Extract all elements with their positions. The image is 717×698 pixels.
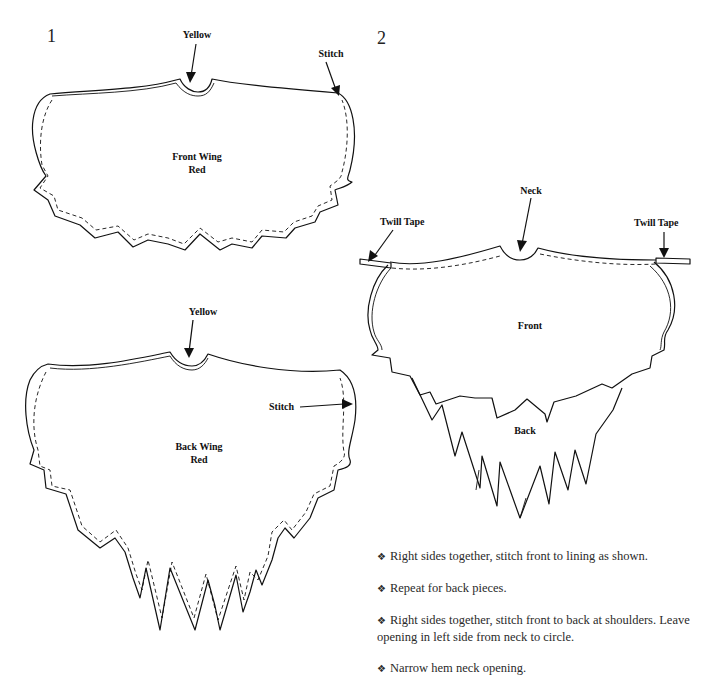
back-label: Back [514, 425, 536, 436]
front-wing-stitch-arrow [326, 62, 340, 96]
front-wing-yellow-arrow [186, 44, 196, 83]
figure-2-number: 2 [377, 28, 386, 49]
twill-tape-left-arrow [368, 230, 393, 262]
back-wing-stitch-arrow [300, 399, 353, 409]
sewing-instruction-page: 1 2 Yellow Stitch Front Wing Red Yellow … [0, 0, 717, 698]
instruction-text: Right sides together, stitch front to ba… [377, 613, 690, 644]
instruction-step: ❖Narrow hem neck opening. [377, 660, 717, 677]
back-wing-title: Back Wing Red [175, 440, 222, 466]
instruction-text: Repeat for back pieces. [390, 581, 507, 595]
back-wing-title-line1: Back Wing [175, 440, 222, 453]
twill-tape-right-arrow [659, 232, 669, 258]
diamond-bullet-icon: ❖ [377, 551, 386, 562]
instruction-list: ❖Right sides together, stitch front to l… [377, 548, 717, 692]
neck-arrow [517, 198, 531, 252]
diamond-bullet-icon: ❖ [377, 663, 386, 674]
back-wing-piece [26, 352, 356, 630]
neck-label: Neck [520, 185, 542, 196]
back-wing-yellow-arrow [184, 320, 194, 358]
front-wing-stitch-label: Stitch [319, 48, 344, 59]
figure-1-number: 1 [47, 26, 56, 47]
twill-tape-right-label: Twill Tape [634, 217, 679, 228]
back-wing-yellow-label: Yellow [189, 306, 217, 317]
instruction-text: Narrow hem neck opening. [390, 661, 526, 675]
diamond-bullet-icon: ❖ [377, 583, 386, 594]
front-wing-title-line2: Red [172, 163, 222, 176]
back-wing-stitch-label: Stitch [269, 401, 294, 412]
twill-tape-left-label: Twill Tape [380, 216, 425, 227]
diamond-bullet-icon: ❖ [377, 615, 386, 626]
back-wing-title-line2: Red [175, 453, 222, 466]
front-wing-title-line1: Front Wing [172, 150, 222, 163]
front-label: Front [518, 320, 542, 331]
instruction-step: ❖Repeat for back pieces. [377, 580, 717, 597]
instruction-text: Right sides together, stitch front to li… [390, 549, 648, 563]
front-wing-title: Front Wing Red [172, 150, 222, 176]
instruction-step: ❖Right sides together, stitch front to b… [377, 612, 717, 645]
front-wing-yellow-label: Yellow [183, 29, 211, 40]
assembled-front-back-piece [360, 246, 690, 518]
instruction-step: ❖Right sides together, stitch front to l… [377, 548, 717, 565]
